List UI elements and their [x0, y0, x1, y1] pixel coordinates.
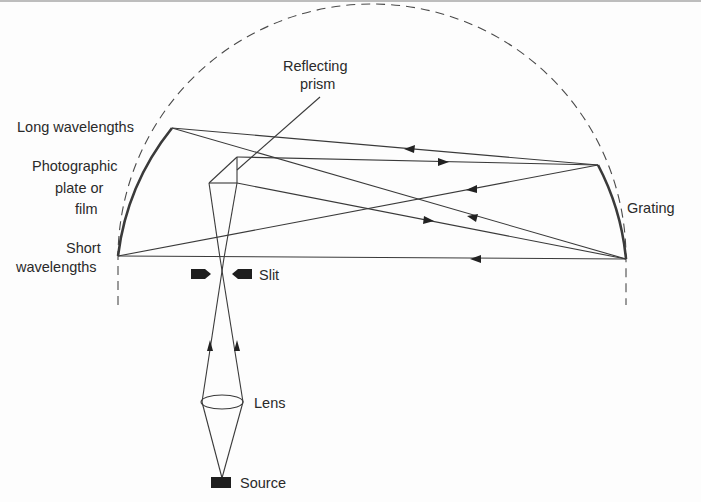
source	[211, 477, 231, 488]
arrow-short-1	[466, 185, 477, 193]
label-source: Source	[240, 475, 286, 491]
rays-to-grating	[237, 157, 626, 259]
rowland-circle	[118, 4, 626, 305]
spectrograph-diagram: Reflecting prism Long wavelengths Photog…	[0, 0, 701, 502]
photographic-plate	[118, 128, 172, 256]
input-rays	[202, 183, 243, 478]
label-short: Short	[66, 240, 101, 256]
arrow-up-left	[207, 340, 213, 351]
label-photographic: Photographic	[32, 158, 117, 174]
label-long-wavelengths: Long wavelengths	[17, 119, 134, 135]
arrow-long-2	[467, 214, 478, 222]
label-lens: Lens	[254, 395, 285, 411]
arrow-long-1	[404, 145, 415, 153]
reflecting-prism	[209, 157, 237, 183]
lens	[201, 395, 243, 409]
label-slit: Slit	[259, 267, 279, 283]
label-film: film	[75, 201, 98, 217]
arrow-to-grating-2	[423, 216, 434, 224]
label-prism: prism	[300, 76, 335, 92]
arrow-up-right	[234, 340, 240, 351]
label-reflecting: Reflecting	[283, 58, 347, 74]
label-wavelengths: wavelengths	[15, 259, 97, 275]
arrow-short-2	[470, 255, 481, 263]
label-grating: Grating	[627, 200, 675, 216]
arrow-to-grating-1	[438, 158, 449, 166]
diffracted-rays	[118, 128, 626, 259]
label-plate-or: plate or	[55, 180, 104, 196]
